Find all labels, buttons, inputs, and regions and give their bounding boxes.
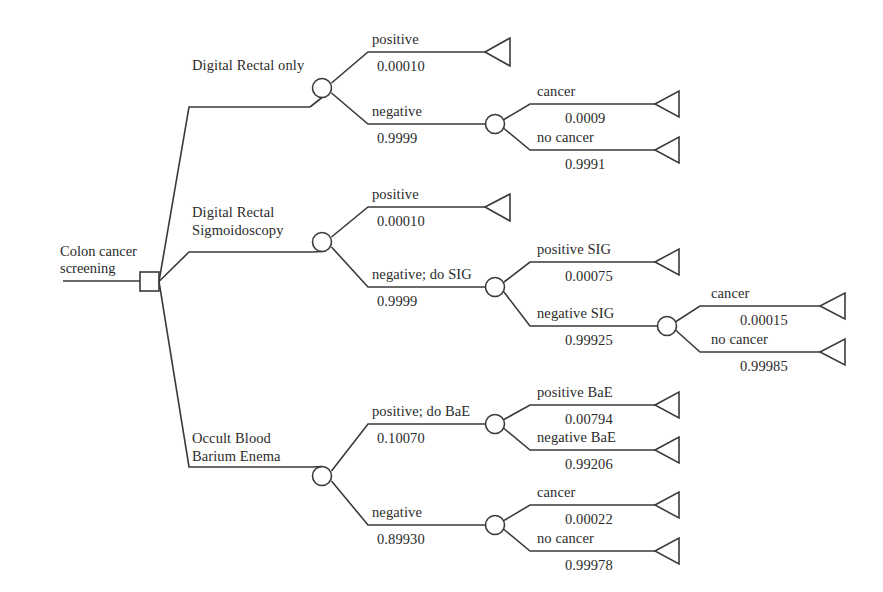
terminal-node-ob-neg-cancer[interactable] — [655, 492, 679, 518]
branch-prob-ob-neg-cancer: 0.00022 — [565, 511, 613, 528]
chance-node-dr-negative[interactable] — [486, 115, 505, 134]
branch-label-sig-positive: positive SIG — [537, 241, 611, 258]
branch-prob-bae-negative: 0.99206 — [565, 456, 613, 473]
chance-node-ob-negative[interactable] — [486, 516, 505, 535]
edge-strategy-digital-rectal-only — [159, 107, 310, 282]
terminal-node-bae-positive[interactable] — [655, 392, 679, 418]
branch-prob-sig-positive: 0.00075 — [565, 268, 613, 285]
chance-node-drs-negative[interactable] — [486, 278, 505, 297]
branch-label-drs-positive: positive — [372, 186, 419, 203]
strategy-label-occult-blood-barium-enema-line1: Occult Blood — [192, 430, 271, 447]
branch-prob-dr-negative: 0.9999 — [377, 130, 417, 147]
root-label-line-1: Colon cancer — [60, 243, 180, 260]
branch-prob-ob-positive-bae: 0.10070 — [377, 430, 425, 447]
terminal-node-drs-positive[interactable] — [485, 194, 510, 221]
branch-label-ob-neg-no-cancer: no cancer — [537, 530, 594, 547]
branch-label-bae-positive: positive BaE — [537, 384, 613, 401]
strategy-label-digital-rectal-sigmoidoscopy-line2: Sigmoidoscopy — [192, 222, 284, 239]
branch-prob-dr-neg-cancer: 0.0009 — [565, 110, 605, 127]
branch-prob-drs-positive: 0.00010 — [377, 213, 425, 230]
terminal-node-dr-positive[interactable] — [485, 38, 510, 66]
branch-prob-bae-positive: 0.00794 — [565, 411, 613, 428]
strategy-label-occult-blood-barium-enema-line2: Barium Enema — [192, 448, 281, 465]
terminal-node-dr-neg-cancer[interactable] — [655, 91, 679, 117]
terminal-node-ob-neg-no-cancer[interactable] — [655, 538, 679, 564]
branch-label-ob-negative: negative — [372, 504, 422, 521]
chance-node-digital-rectal-sigmoidoscopy[interactable] — [313, 233, 332, 252]
edge-stub-dr — [310, 98, 322, 108]
branch-prob-ob-negative: 0.89930 — [377, 531, 425, 548]
chance-node-digital-rectal-only[interactable] — [313, 79, 332, 98]
chance-node-sig-negative[interactable] — [658, 317, 677, 336]
branch-prob-drs-negative-sig: 0.9999 — [377, 293, 417, 310]
edge-stub-drs — [312, 252, 322, 253]
branch-label-bae-negative: negative BaE — [537, 429, 616, 446]
terminal-node-sig-neg-no-cancer[interactable] — [820, 339, 845, 365]
branch-label-dr-negative: negative — [372, 103, 422, 120]
strategy-label-digital-rectal-only: Digital Rectal only — [192, 57, 304, 74]
branch-prob-sig-neg-no-cancer: 0.99985 — [740, 358, 788, 375]
branch-label-sig-neg-cancer: cancer — [711, 285, 749, 302]
branch-label-dr-neg-cancer: cancer — [537, 83, 575, 100]
terminal-node-dr-neg-no-cancer[interactable] — [655, 137, 679, 163]
terminal-node-bae-negative[interactable] — [655, 437, 679, 463]
branch-label-ob-positive-bae: positive; do BaE — [372, 403, 470, 420]
tree-edges-and-nodes — [0, 0, 883, 592]
root-label: Colon cancer screening — [60, 243, 180, 278]
branch-prob-sig-neg-cancer: 0.00015 — [740, 312, 788, 329]
root-label-line-2: screening — [60, 260, 180, 277]
branch-prob-dr-neg-no-cancer: 0.9991 — [565, 156, 605, 173]
branch-prob-dr-positive: 0.00010 — [377, 58, 425, 75]
branch-label-sig-neg-no-cancer: no cancer — [711, 331, 768, 348]
branch-label-sig-negative: negative SIG — [537, 305, 614, 322]
branch-label-dr-neg-no-cancer: no cancer — [537, 129, 594, 146]
edge-strategy-digital-rectal-sigmoidoscopy — [159, 252, 312, 282]
decision-tree-diagram: Colon cancer screening Digital Rectal on… — [0, 0, 883, 592]
edge-stub-ob — [312, 467, 322, 468]
branch-label-dr-positive: positive — [372, 31, 419, 48]
branch-prob-ob-neg-no-cancer: 0.99978 — [565, 557, 613, 574]
branch-label-drs-negative-sig: negative; do SIG — [372, 266, 472, 283]
terminal-node-sig-positive[interactable] — [655, 249, 679, 275]
strategy-label-digital-rectal-sigmoidoscopy-line1: Digital Rectal — [192, 204, 274, 221]
chance-node-ob-positive[interactable] — [486, 415, 505, 434]
branch-prob-sig-negative: 0.99925 — [565, 332, 613, 349]
branch-label-ob-neg-cancer: cancer — [537, 484, 575, 501]
terminal-node-sig-neg-cancer[interactable] — [820, 293, 845, 319]
chance-node-occult-blood-barium-enema[interactable] — [313, 467, 332, 486]
